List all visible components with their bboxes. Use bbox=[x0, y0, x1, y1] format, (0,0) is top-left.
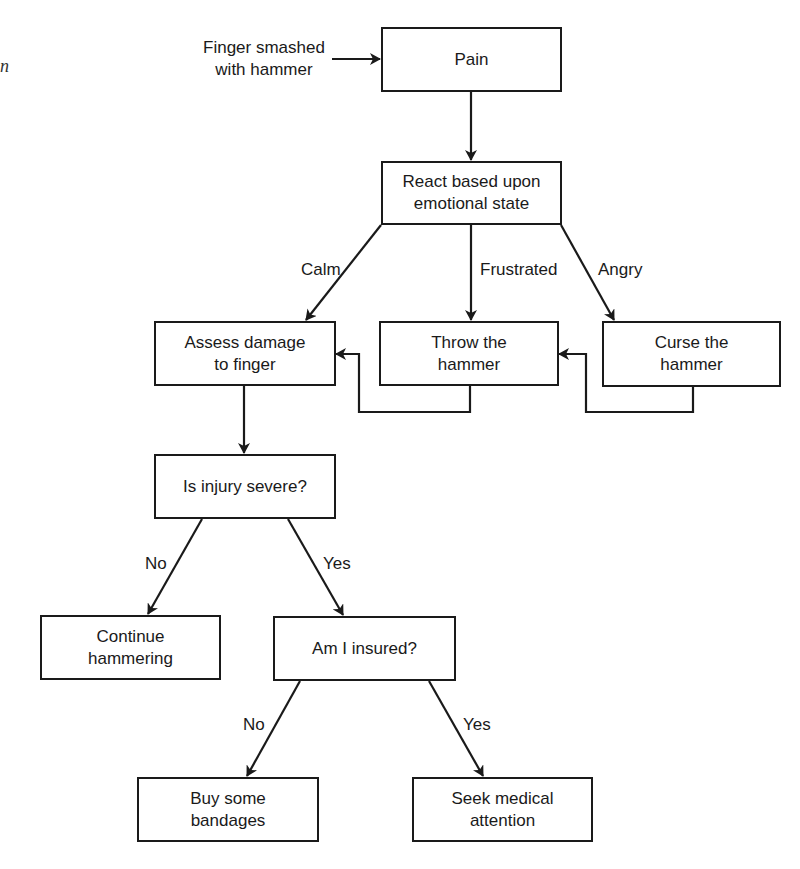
node-assess-line2: to finger bbox=[185, 354, 306, 376]
node-curse: Curse the hammer bbox=[602, 321, 781, 387]
edge-label-calm: Calm bbox=[301, 260, 341, 280]
node-assess-line1: Assess damage bbox=[185, 332, 306, 354]
node-medical-line2: attention bbox=[451, 810, 553, 832]
node-continue-line1: Continue bbox=[88, 626, 173, 648]
connector-layer bbox=[0, 0, 800, 869]
node-pain-label: Pain bbox=[454, 49, 488, 71]
node-throw-line2: hammer bbox=[431, 354, 507, 376]
node-assess: Assess damage to finger bbox=[154, 321, 336, 386]
input-label-line2: with hammer bbox=[196, 59, 332, 81]
edge-label-angry: Angry bbox=[598, 260, 642, 280]
node-throw-line1: Throw the bbox=[431, 332, 507, 354]
edge-label-severe-no: No bbox=[145, 554, 167, 574]
node-bandages: Buy some bandages bbox=[137, 777, 319, 842]
node-react: React based upon emotional state bbox=[381, 161, 562, 225]
node-bandages-line1: Buy some bbox=[190, 788, 266, 810]
node-severe-label: Is injury severe? bbox=[183, 476, 307, 498]
node-medical: Seek medical attention bbox=[412, 777, 593, 842]
node-react-line1: React based upon bbox=[403, 171, 541, 193]
node-continue-line2: hammering bbox=[88, 648, 173, 670]
page-edge-fragment: n bbox=[0, 56, 9, 77]
edge-label-insured-no: No bbox=[243, 715, 265, 735]
node-react-line2: emotional state bbox=[403, 193, 541, 215]
node-throw: Throw the hammer bbox=[379, 321, 559, 386]
node-severe: Is injury severe? bbox=[154, 454, 336, 519]
edge-label-severe-yes: Yes bbox=[323, 554, 351, 574]
node-bandages-line2: bandages bbox=[190, 810, 266, 832]
edge-label-frustrated: Frustrated bbox=[480, 260, 557, 280]
node-medical-line1: Seek medical bbox=[451, 788, 553, 810]
node-insured: Am I insured? bbox=[273, 616, 456, 681]
node-continue: Continue hammering bbox=[40, 615, 221, 680]
input-label-line1: Finger smashed bbox=[196, 37, 332, 59]
edge-label-insured-yes: Yes bbox=[463, 715, 491, 735]
input-label: Finger smashed with hammer bbox=[196, 37, 332, 81]
node-curse-line1: Curse the bbox=[655, 332, 729, 354]
flowchart-canvas: n Finger smashed with hammer Pain React … bbox=[0, 0, 800, 869]
node-curse-line2: hammer bbox=[655, 354, 729, 376]
node-pain: Pain bbox=[381, 27, 562, 92]
node-insured-label: Am I insured? bbox=[312, 638, 417, 660]
